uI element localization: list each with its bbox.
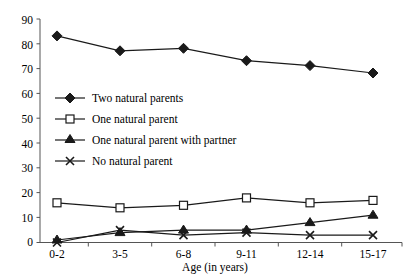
chart-canvas: 90 80 70 60 50 40 30 20 10 0	[0, 0, 406, 274]
x-tick-label: 3-5	[112, 248, 128, 260]
x-axis-title: Age (in years)	[182, 261, 248, 274]
y-tick-label: 30	[22, 162, 34, 174]
series-one-natural-parent	[53, 194, 377, 212]
y-tick-label: 90	[22, 14, 34, 26]
legend-item-two-natural-parents[interactable]: Two natural parents	[55, 92, 184, 105]
y-axis-tick-labels: 90 80 70 60 50 40 30 20 10 0	[22, 14, 34, 248]
legend-item-no-natural-parent[interactable]: No natural parent	[55, 155, 173, 168]
y-tick-label: 80	[22, 39, 34, 51]
x-tick-label: 0-2	[49, 248, 65, 260]
x-tick-label: 15-17	[360, 248, 387, 260]
x-axis-tick-labels: 0-2 3-5 6-8 9-11 12-14 15-17	[49, 248, 386, 260]
y-tick-label: 70	[22, 63, 34, 75]
line-chart: 90 80 70 60 50 40 30 20 10 0	[0, 0, 406, 274]
y-tick-label: 50	[22, 113, 34, 125]
legend-item-one-natural-parent-with-partner[interactable]: One natural parent with partner	[55, 134, 236, 147]
legend-label: One natural parent with partner	[92, 134, 236, 147]
x-tick-label: 12-14	[297, 248, 324, 260]
x-tick-label: 6-8	[176, 248, 192, 260]
data-point-marker-triangle	[52, 210, 378, 243]
y-tick-label: 0	[27, 236, 33, 248]
y-tick-label: 10	[22, 212, 34, 224]
legend-label: Two natural parents	[92, 92, 184, 105]
y-axis-ticks	[37, 19, 41, 243]
x-tick-label: 9-11	[236, 248, 257, 260]
series-two-natural-parents	[52, 31, 378, 78]
y-tick-label: 20	[22, 187, 34, 199]
legend-label: One natural parent	[92, 113, 178, 126]
x-axis-ticks	[88, 243, 402, 247]
legend-label: No natural parent	[92, 155, 173, 168]
series-one-natural-parent-with-partner	[52, 210, 378, 243]
legend: Two natural parents One natural parent O…	[55, 92, 236, 168]
y-tick-label: 60	[22, 88, 34, 100]
y-tick-label: 40	[22, 138, 34, 150]
legend-item-one-natural-parent[interactable]: One natural parent	[55, 113, 178, 126]
data-point-marker-square	[53, 194, 377, 212]
